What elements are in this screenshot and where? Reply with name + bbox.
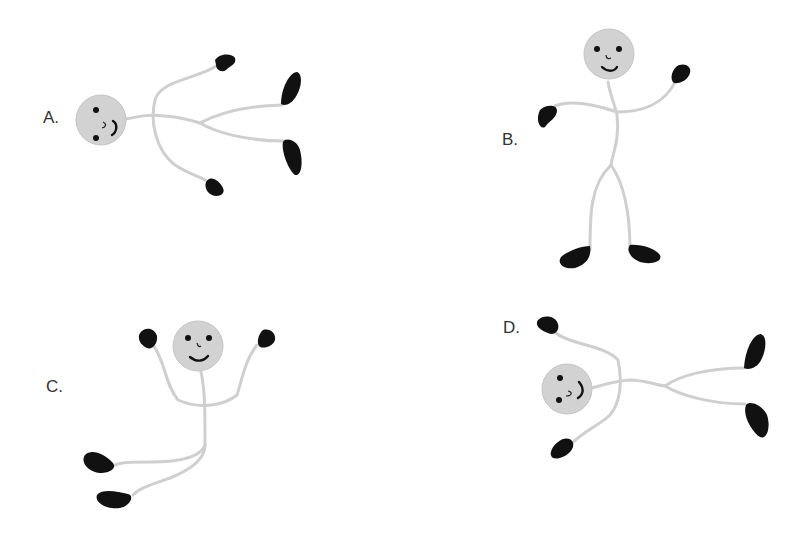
hand <box>537 317 558 334</box>
foot <box>745 403 768 437</box>
hand <box>672 65 691 84</box>
foot <box>283 140 302 175</box>
eye <box>206 335 212 341</box>
stick-figures-canvas <box>0 0 807 541</box>
hand <box>139 329 157 349</box>
hand <box>215 54 235 71</box>
hand <box>538 106 557 128</box>
stick-figure-c <box>83 321 275 508</box>
hand <box>258 330 275 348</box>
foot <box>628 245 660 263</box>
stick-figure-b <box>538 29 690 268</box>
hand <box>205 179 223 196</box>
foot <box>83 452 114 473</box>
head <box>542 364 592 414</box>
stick-figure-a <box>76 54 302 196</box>
foot <box>744 334 765 369</box>
eye <box>616 46 622 52</box>
eye <box>557 375 563 381</box>
foot <box>281 72 301 105</box>
head <box>76 95 126 145</box>
eye <box>594 46 600 52</box>
stick-figure-d <box>537 317 769 459</box>
eye <box>556 397 562 403</box>
foot <box>97 491 132 508</box>
eye <box>93 107 99 113</box>
hand <box>551 439 574 459</box>
eye <box>185 335 191 341</box>
foot <box>560 246 591 268</box>
eye <box>93 135 99 141</box>
